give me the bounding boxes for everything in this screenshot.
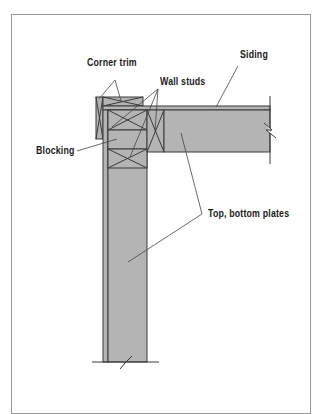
label-wall-studs: Wall studs: [160, 76, 205, 87]
corner-trim-vertical: [96, 97, 103, 139]
siding-left: [103, 110, 108, 362]
label-siding: Siding: [240, 49, 268, 60]
siding-top: [103, 106, 270, 110]
label-top-bottom-plates: Top, bottom plates: [208, 208, 289, 219]
horizontal-wall-plate: [164, 110, 270, 152]
corner-stud-upper: [108, 110, 147, 130]
wall-stud-right: [147, 110, 164, 152]
blocking-piece: [108, 130, 147, 149]
leader-corner-trim-1: [99, 80, 115, 99]
corner-trim-horizontal: [103, 97, 143, 106]
label-corner-trim: Corner trim: [87, 57, 137, 68]
label-blocking: Blocking: [36, 145, 75, 156]
corner-stud-lower: [108, 149, 147, 168]
leader-siding: [216, 66, 238, 107]
